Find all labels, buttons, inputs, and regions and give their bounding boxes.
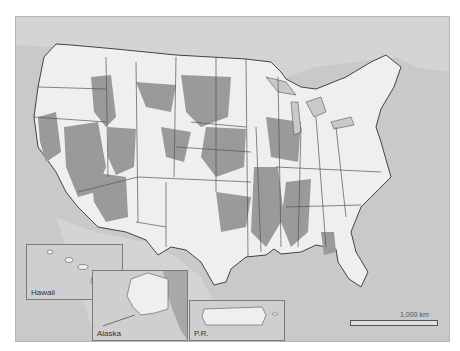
scale-bar-rect: [350, 320, 438, 326]
map-frame: Hawaii Alaska P.R. 1,000 km: [15, 16, 450, 342]
puerto-rico-inset: P.R.: [189, 300, 285, 341]
alaska-inset: Alaska: [92, 270, 188, 341]
puerto-rico-label: P.R.: [194, 329, 209, 338]
hawaii-label: Hawaii: [31, 288, 55, 297]
alaska-label: Alaska: [97, 329, 121, 338]
scale-bar-label: 1,000 km: [400, 311, 429, 318]
